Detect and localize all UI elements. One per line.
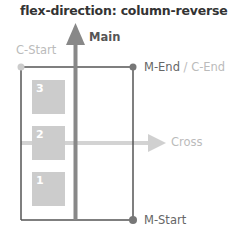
- m-end-label: M-End / C-End: [144, 60, 225, 74]
- main-axis-label: Main: [89, 30, 120, 44]
- m-end-dot: [130, 64, 137, 71]
- m-start-dot: [129, 216, 137, 224]
- main-axis-arrow: [66, 23, 85, 220]
- c-end-text: C-End: [191, 60, 225, 74]
- c-start-label: C-Start: [16, 43, 56, 57]
- cross-axis-arrow: [21, 134, 166, 152]
- cross-axis-label: Cross: [171, 135, 203, 149]
- m-end-text: M-End: [144, 60, 180, 74]
- label-separator: /: [180, 60, 191, 74]
- m-start-label: M-Start: [144, 213, 186, 227]
- flex-diagram: flex-direction: column-reverse 3 2 1: [0, 0, 237, 234]
- c-start-dot: [18, 64, 25, 71]
